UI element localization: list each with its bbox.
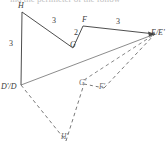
- segment-d-h: [21, 12, 22, 85]
- figure-canvas: [0, 0, 168, 147]
- segment-e-d: [21, 34, 155, 85]
- segment-f-e: [83, 26, 155, 34]
- segment-dprime-hprime: [21, 85, 66, 141]
- image-polygon-dashed-lines: [21, 34, 155, 141]
- preimage-polygon-lines: [21, 12, 155, 85]
- segment-fprime-eprime: [104, 34, 155, 88]
- segment-gprime-fprime: [84, 84, 104, 88]
- segment-g-f: [73, 26, 83, 48]
- geometry-figure: ind the perimeter of the follow H G F E/…: [0, 0, 168, 147]
- segment-hprime-gprime: [66, 84, 84, 141]
- segment-h-g: [22, 12, 73, 48]
